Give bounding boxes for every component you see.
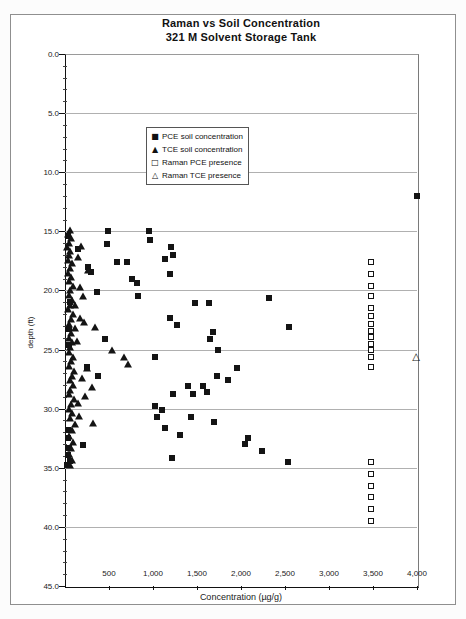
legend-label: PCE soil concentration [162,132,243,141]
chart-page: Raman vs Soil Concentration 321 M Solven… [0,0,466,619]
x-axis-title: Concentration (µg/g) [65,592,417,602]
legend-label: Raman TCE presence [162,171,241,180]
legend-item-pce-soil: ■ PCE soil concentration [150,130,243,143]
filled-square-icon: ■ [150,132,160,142]
legend: ■ PCE soil concentration ▲ TCE soil conc… [146,127,249,185]
chart-subtitle: 321 M Solvent Storage Tank [65,31,417,43]
legend-label: TCE soil concentration [162,145,242,154]
legend-item-raman-tce: △ Raman TCE presence [150,169,243,182]
legend-item-raman-pce: □ Raman PCE presence [150,156,243,169]
filled-triangle-icon: ▲ [150,145,160,155]
open-square-icon: □ [150,158,160,168]
chart-title: Raman vs Soil Concentration [65,17,417,29]
open-triangle-icon: △ [150,171,160,181]
legend-label: Raman PCE presence [162,158,242,167]
legend-item-tce-soil: ▲ TCE soil concentration [150,143,243,156]
y-axis-title: depth (ft) [26,316,35,348]
